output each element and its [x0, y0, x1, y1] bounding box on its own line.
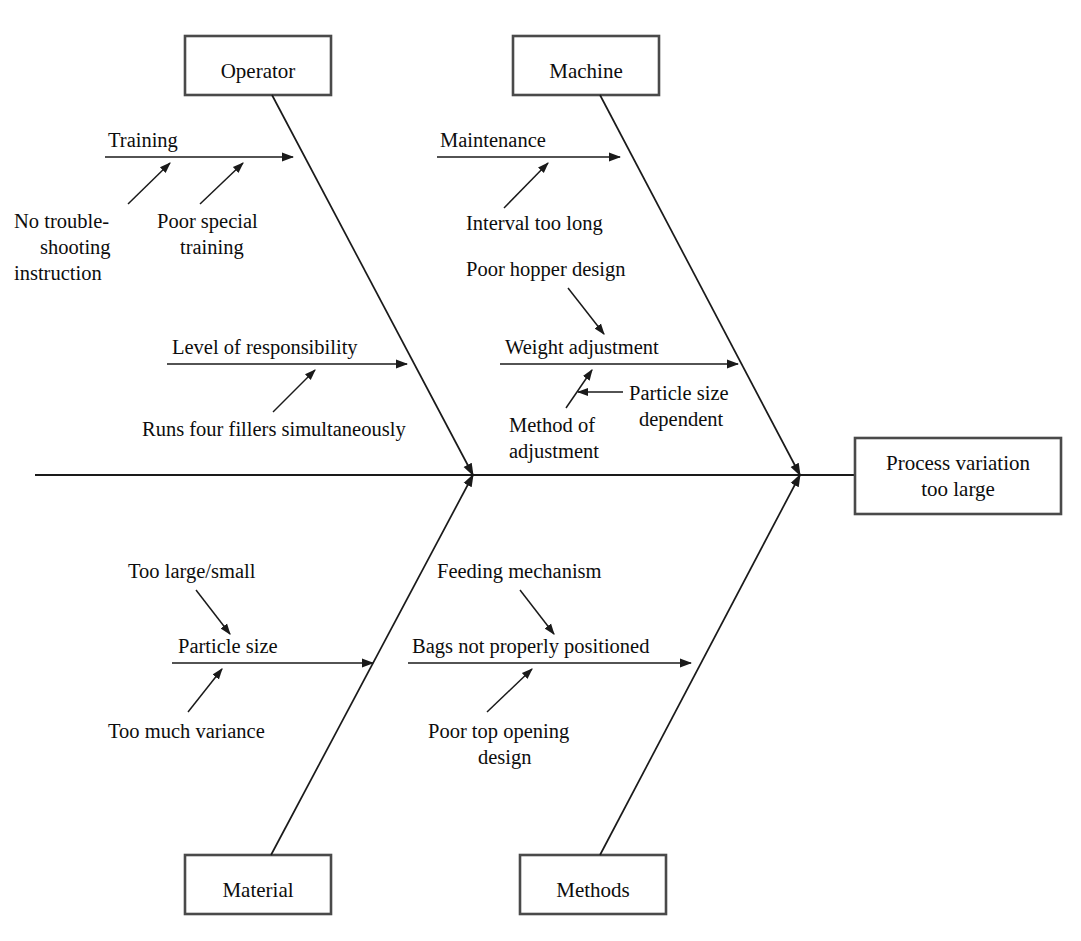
too-large-small-label: Too large/small — [128, 560, 256, 583]
material-box-label: Material — [222, 878, 293, 902]
poor-special-training-twig — [200, 163, 243, 204]
category-methods[interactable]: Methods — [520, 475, 800, 914]
method-of-adjustment-twig — [566, 370, 592, 408]
poor-top-opening-twig — [487, 669, 532, 712]
poor-special-training-line2: training — [180, 236, 244, 259]
fishbone-diagram: Process variation too large Operator Tra… — [0, 0, 1081, 941]
category-material[interactable]: Material — [185, 475, 473, 914]
poor-special-training-line1: Poor special — [157, 210, 258, 233]
branch-training: Training No trouble- shooting instructio… — [14, 129, 293, 284]
too-large-small-twig — [196, 590, 230, 634]
machine-box-label: Machine — [549, 59, 622, 83]
effect-box-group[interactable]: Process variation too large — [855, 438, 1061, 514]
branch-level-of-responsibility: Level of responsibility Runs four filler… — [142, 336, 407, 441]
bags-rib-label: Bags not properly positioned — [412, 635, 649, 658]
effect-label-line1: Process variation — [886, 451, 1031, 475]
training-rib-label: Training — [108, 129, 178, 152]
poor-hopper-design-label: Poor hopper design — [466, 258, 625, 281]
poor-top-opening-line2: design — [478, 746, 532, 769]
particle-size-dependent-line2: dependent — [639, 408, 724, 431]
method-of-adjustment-line1: Method of — [509, 414, 595, 436]
branch-bags-not-positioned: Bags not properly positioned Feeding mec… — [408, 560, 691, 769]
maintenance-rib-label: Maintenance — [440, 129, 546, 151]
no-troubleshooting-line1: No trouble- — [14, 210, 109, 232]
runs-four-fillers-label: Runs four fillers simultaneously — [142, 418, 406, 441]
particle-size-dependent-line1: Particle size — [629, 382, 729, 404]
no-troubleshooting-line2: shooting — [40, 236, 111, 259]
effect-box[interactable] — [855, 438, 1061, 514]
branch-maintenance: Maintenance Interval too long — [437, 129, 620, 235]
branch-weight-adjustment: Weight adjustment Poor hopper design Met… — [466, 258, 738, 463]
method-of-adjustment-line2: adjustment — [509, 440, 599, 463]
methods-bone — [600, 475, 800, 855]
runs-four-fillers-twig — [273, 370, 315, 412]
weight-adjustment-rib-label: Weight adjustment — [505, 336, 659, 359]
effect-label-line2: too large — [921, 477, 995, 501]
interval-too-long-twig — [504, 163, 548, 208]
operator-box-label: Operator — [221, 59, 296, 83]
methods-box-label: Methods — [556, 878, 630, 902]
poor-hopper-design-twig — [568, 288, 604, 334]
particle-size-rib-label: Particle size — [178, 635, 278, 657]
fishbone-canvas: Process variation too large Operator Tra… — [0, 0, 1081, 941]
feeding-mechanism-label: Feeding mechanism — [437, 560, 602, 583]
poor-top-opening-line1: Poor top opening — [428, 720, 569, 743]
feeding-mechanism-twig — [520, 590, 554, 634]
level-responsibility-rib-label: Level of responsibility — [172, 336, 358, 359]
no-troubleshooting-twig — [128, 163, 170, 204]
too-much-variance-twig — [188, 669, 222, 712]
branch-particle-size: Particle size Too large/small Too much v… — [108, 560, 373, 742]
too-much-variance-label: Too much variance — [108, 720, 265, 742]
no-troubleshooting-line3: instruction — [14, 262, 102, 284]
interval-too-long-label: Interval too long — [466, 212, 603, 235]
material-bone — [271, 475, 473, 855]
